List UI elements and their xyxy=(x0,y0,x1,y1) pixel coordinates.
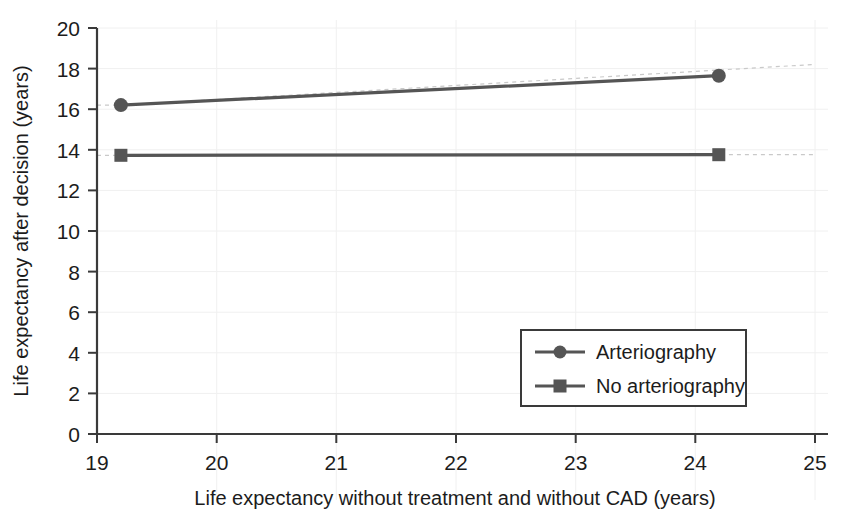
y-tick-label: 6 xyxy=(68,301,80,324)
y-tick-label: 16 xyxy=(57,98,80,121)
y-axis-title: Life expectancy after decision (years) xyxy=(10,65,32,396)
y-tick-label: 8 xyxy=(68,261,80,284)
circle-marker-icon xyxy=(554,346,567,359)
legend-label: No arteriography xyxy=(596,375,745,397)
y-tick-label: 18 xyxy=(57,58,80,81)
y-tick-label: 12 xyxy=(57,179,80,202)
x-tick-label: 23 xyxy=(564,451,587,474)
x-tick-label: 25 xyxy=(803,451,826,474)
y-tick-label: 0 xyxy=(68,423,80,446)
chart-legend[interactable]: Arteriography No arteriography xyxy=(521,330,746,406)
x-tick-label: 19 xyxy=(85,451,108,474)
y-tick-label: 2 xyxy=(68,382,80,405)
data-point-marker xyxy=(114,149,127,162)
data-point-marker xyxy=(712,148,725,161)
y-tick-label: 4 xyxy=(68,342,80,365)
x-tick-label: 21 xyxy=(325,451,348,474)
y-tick-label: 10 xyxy=(57,220,80,243)
x-tick-label: 20 xyxy=(205,451,228,474)
legend-label: Arteriography xyxy=(596,341,716,363)
y-tick-label: 14 xyxy=(57,139,81,162)
x-tick-label: 22 xyxy=(444,451,467,474)
x-axis-title: Life expectancy without treatment and wi… xyxy=(194,487,715,509)
square-marker-icon xyxy=(554,380,567,393)
data-point-marker xyxy=(712,69,726,83)
line-chart: 20 18 16 14 12 10 8 6 4 2 0 19 20 21 22 … xyxy=(0,0,846,521)
x-tick-label: 24 xyxy=(684,451,708,474)
data-point-marker xyxy=(114,98,128,112)
y-tick-label: 20 xyxy=(57,17,80,40)
series-line-no-arteriography xyxy=(121,155,719,156)
chart-figure: 20 18 16 14 12 10 8 6 4 2 0 19 20 21 22 … xyxy=(0,0,846,521)
